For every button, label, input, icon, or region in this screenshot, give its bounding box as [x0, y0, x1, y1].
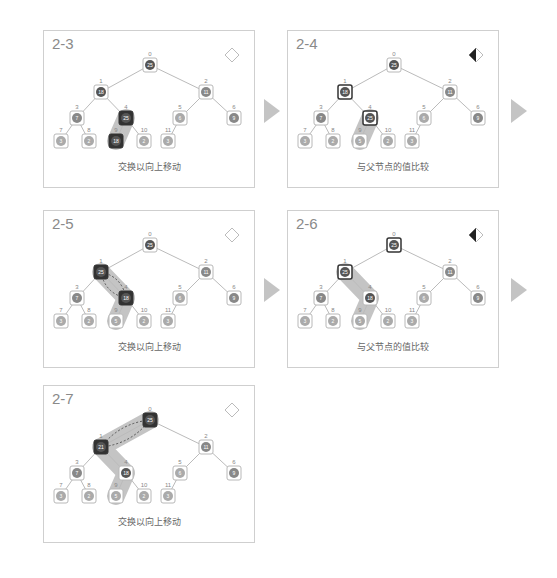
svg-text:7: 7 [76, 470, 79, 476]
tree-node: 82 [82, 127, 96, 148]
panel-caption: 与父节点的值比较 [288, 160, 498, 173]
svg-text:2: 2 [332, 138, 335, 144]
tree-node: 025 [143, 406, 157, 427]
svg-text:3: 3 [304, 138, 307, 144]
svg-text:6: 6 [179, 470, 182, 476]
svg-text:9: 9 [233, 470, 236, 476]
tree-node: 211 [199, 258, 213, 279]
tree-node: 102 [137, 127, 151, 148]
tree-node: 69 [227, 284, 241, 305]
svg-text:18: 18 [342, 89, 348, 95]
tree-node: 425 [363, 104, 377, 125]
tree-node: 73 [298, 127, 312, 148]
tree-node: 73 [298, 307, 312, 328]
next-step-arrow-icon [264, 278, 280, 302]
svg-text:2: 2 [448, 258, 452, 264]
svg-text:11: 11 [165, 307, 172, 313]
tree-node: 113 [161, 127, 175, 148]
svg-text:1: 1 [343, 258, 347, 264]
tree-node: 56 [173, 284, 187, 305]
tree-node: 113 [405, 127, 419, 148]
svg-text:11: 11 [165, 127, 172, 133]
tree-node: 37 [70, 104, 84, 125]
next-step-arrow-icon [264, 99, 280, 123]
svg-text:18: 18 [98, 89, 104, 95]
svg-text:2: 2 [88, 138, 91, 144]
svg-text:5: 5 [359, 318, 362, 324]
svg-text:11: 11 [203, 89, 208, 95]
diamond-half-filled-icon [468, 227, 484, 243]
tree-node: 125 [94, 258, 108, 279]
svg-text:6: 6 [423, 115, 426, 121]
svg-text:9: 9 [233, 295, 236, 301]
svg-text:10: 10 [141, 482, 148, 488]
svg-text:0: 0 [148, 231, 152, 237]
svg-text:1: 1 [99, 258, 103, 264]
tree-node: 82 [326, 307, 340, 328]
tree-node: 425 [119, 104, 133, 125]
svg-text:6: 6 [232, 459, 236, 465]
svg-text:6: 6 [476, 284, 480, 290]
svg-text:3: 3 [75, 284, 79, 290]
svg-text:5: 5 [115, 493, 118, 499]
svg-text:25: 25 [147, 242, 153, 248]
svg-text:7: 7 [303, 127, 307, 133]
svg-text:25: 25 [123, 115, 129, 121]
svg-text:3: 3 [167, 493, 170, 499]
tree-node: 025 [387, 51, 401, 72]
tree-node: 113 [161, 482, 175, 503]
panel-caption: 交换以向上移动 [44, 160, 254, 173]
panel-2-6: 2-6 025125211374185669738295102113 与父节点的… [287, 210, 499, 368]
svg-text:2: 2 [143, 138, 146, 144]
svg-text:3: 3 [167, 318, 170, 324]
svg-text:10: 10 [141, 307, 148, 313]
svg-text:2: 2 [387, 138, 390, 144]
svg-text:6: 6 [232, 104, 236, 110]
tree-node: 56 [417, 104, 431, 125]
svg-text:8: 8 [331, 127, 335, 133]
svg-text:7: 7 [59, 482, 63, 488]
svg-text:25: 25 [391, 242, 397, 248]
tree-node: 37 [314, 104, 328, 125]
tree-node: 73 [54, 127, 68, 148]
svg-text:1: 1 [343, 78, 347, 84]
panel-2-3: 2-3 0251182113742556697382918102113 交换以向… [43, 30, 255, 188]
svg-text:6: 6 [179, 295, 182, 301]
svg-text:18: 18 [367, 295, 373, 301]
svg-text:7: 7 [59, 127, 63, 133]
svg-text:7: 7 [320, 115, 323, 121]
svg-text:7: 7 [76, 115, 79, 121]
diamond-outline-icon [224, 47, 240, 63]
svg-text:5: 5 [422, 284, 426, 290]
svg-text:0: 0 [392, 51, 396, 57]
svg-text:3: 3 [60, 138, 63, 144]
tree-node: 025 [143, 231, 157, 252]
svg-text:0: 0 [392, 231, 396, 237]
svg-text:8: 8 [331, 307, 335, 313]
svg-text:2: 2 [88, 318, 91, 324]
svg-text:2: 2 [204, 258, 208, 264]
svg-text:11: 11 [409, 307, 416, 313]
svg-text:3: 3 [60, 493, 63, 499]
svg-text:18: 18 [123, 295, 129, 301]
svg-text:5: 5 [178, 284, 182, 290]
svg-text:3: 3 [75, 104, 79, 110]
svg-text:8: 8 [87, 482, 91, 488]
tree-node: 025 [143, 51, 157, 72]
svg-text:6: 6 [179, 115, 182, 121]
panel-2-4: 2-4 025118211374255669738295102113 与父节点的… [287, 30, 499, 188]
panel-2-7: 2-7 025121211374185669738295102113 交换以向上… [43, 385, 255, 543]
svg-text:2: 2 [143, 318, 146, 324]
svg-text:11: 11 [409, 127, 416, 133]
tree-node: 102 [381, 307, 395, 328]
svg-text:5: 5 [178, 104, 182, 110]
tree-node: 102 [137, 307, 151, 328]
diamond-outline-icon [224, 402, 240, 418]
tree-node: 56 [173, 459, 187, 480]
tree-node: 69 [471, 104, 485, 125]
tree-node: 37 [314, 284, 328, 305]
panel-caption: 与父节点的值比较 [288, 340, 498, 353]
svg-text:5: 5 [178, 459, 182, 465]
svg-text:6: 6 [423, 295, 426, 301]
tree-node: 73 [54, 482, 68, 503]
